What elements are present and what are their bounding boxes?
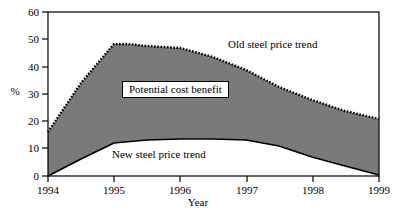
x-axis-tick-label: 1995 [94, 185, 134, 196]
y-axis-tick-label: 0 [17, 171, 39, 182]
x-axis-title: Year [0, 197, 396, 208]
steel-price-trend-chart: 60 50 40 30 20 10 0 % 1994 1995 1996 199… [0, 0, 396, 211]
y-axis-tick-label: 40 [17, 62, 39, 73]
y-axis-tick-label: 50 [17, 34, 39, 45]
new-steel-price-trend-label: New steel price trend [112, 148, 206, 160]
x-axis-tick-label: 1996 [160, 185, 200, 196]
y-axis-tick-label: 20 [17, 116, 39, 127]
x-axis-ticks [48, 176, 379, 182]
x-axis-tick-label: 1999 [359, 185, 396, 196]
x-axis-tick-label: 1997 [227, 185, 267, 196]
y-axis-ticks [42, 12, 48, 176]
x-axis-tick-label: 1994 [28, 185, 68, 196]
potential-cost-benefit-label: Potential cost benefit [122, 81, 229, 98]
y-axis-tick-label: 60 [17, 7, 39, 18]
x-axis-tick-label: 1998 [293, 185, 333, 196]
y-axis-tick-label: 10 [17, 143, 39, 154]
chart-canvas [0, 0, 396, 211]
y-axis-title: % [8, 86, 22, 97]
old-steel-price-trend-label: Old steel price trend [228, 38, 318, 50]
